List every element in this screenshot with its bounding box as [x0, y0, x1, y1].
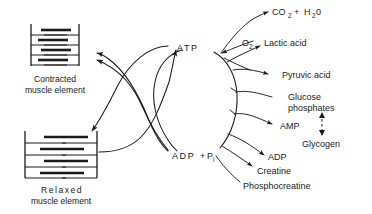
- o2-subscript: 2: [249, 43, 253, 50]
- lactic-acid-label: Lactic acid: [264, 38, 307, 48]
- arrow-relaxed-to-atp: [99, 50, 176, 152]
- arrow-to-adp-branch: [228, 134, 264, 155]
- amp-label: AMP: [280, 121, 300, 131]
- contracted-caption-line1: Contracted: [34, 74, 76, 84]
- oxygen-label: O 2: [242, 38, 253, 50]
- phosphocreatine-label: Phosphocreatine: [243, 181, 311, 191]
- co2-h2o-plus: +: [294, 7, 299, 17]
- relaxed-muscle-element: Relaxed muscle element: [25, 131, 97, 206]
- phosphate-subscript: i: [213, 156, 214, 163]
- contracted-caption-line2: muscle element: [25, 85, 86, 95]
- adp-branch-label: ADP: [268, 152, 287, 162]
- arrow-to-phosphocreatine: [216, 156, 240, 182]
- glycogen-label: Glycogen: [302, 139, 340, 149]
- creatine-label: Creatine: [257, 166, 291, 176]
- h2o-tail: 0: [316, 7, 321, 17]
- arrow-to-amp: [234, 114, 272, 124]
- metabolism-diagram: Contracted muscle element Relaxed muscle…: [0, 0, 372, 214]
- arrow-to-lactic-acid: [227, 46, 260, 62]
- atp-label: ATP: [177, 43, 199, 53]
- arrow-adp-to-contracted: [97, 53, 168, 151]
- cycle-right-arc: [214, 52, 237, 148]
- co2-label: CO: [272, 7, 286, 17]
- arrow-to-creatine: [222, 146, 252, 166]
- o2-label: O: [242, 38, 249, 48]
- product-labels: CO 2 + H 2 0 O 2 Lactic acid Pyruvic aci…: [242, 7, 340, 191]
- arrow-to-glucose-phosphates: [236, 91, 272, 97]
- relaxed-caption-line1: Relaxed: [41, 185, 83, 195]
- arrow-to-pyruvic-acid: [233, 69, 268, 74]
- glycogen-arrowhead-down: [319, 130, 325, 136]
- glucose-phosphates-line2: phosphates: [288, 103, 335, 113]
- co2-h2o-label: CO 2 + H 2 0: [272, 7, 321, 19]
- arrow-atp-to-contracted: [92, 46, 168, 131]
- contracted-muscle-element: Contracted muscle element: [25, 24, 86, 95]
- co2-subscript: 2: [288, 12, 292, 19]
- diagram-canvas: Contracted muscle element Relaxed muscle…: [0, 0, 372, 214]
- atp-adp-cycle: ATP ADP + P i: [154, 43, 237, 163]
- adp-label: ADP: [172, 151, 195, 161]
- adp-pi-label: ADP + P i: [172, 151, 214, 163]
- pyruvic-acid-label: Pyruvic acid: [282, 70, 331, 80]
- glycogen-equilibrium-arrow: [319, 112, 325, 136]
- junction-tick-amp: [230, 110, 235, 114]
- plus-sign: +: [200, 151, 205, 161]
- glucose-phosphates-line1: Glucose: [288, 92, 321, 102]
- relaxed-caption-line2: muscle element: [31, 196, 92, 206]
- h2o-label: H: [304, 7, 311, 17]
- arrow-lactic-branch-tail: [224, 58, 250, 70]
